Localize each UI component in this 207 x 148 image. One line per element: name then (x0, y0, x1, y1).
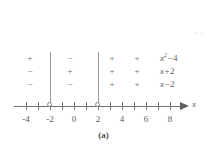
axis-variable-label: x (192, 99, 196, 109)
axis-tick (158, 102, 159, 110)
sign-cell: − (24, 65, 36, 78)
open-circle-point (95, 102, 100, 107)
sign-cell: + (131, 78, 143, 91)
axis-tick-label: 8 (160, 114, 180, 124)
axis-tick (146, 102, 147, 110)
expr-number: 2 (170, 79, 175, 89)
row-expression-label: x+2 (160, 64, 175, 78)
expr-number: 4 (173, 53, 178, 63)
axis-tick (38, 102, 39, 110)
sign-cell: + (131, 52, 143, 65)
axis-tick (134, 102, 135, 110)
sign-cell: − (24, 78, 36, 91)
axis-tick (122, 102, 123, 110)
sign-cell: + (106, 52, 118, 65)
table-row: − − + + x−2 (0, 78, 207, 91)
axis-tick-label: 2 (88, 114, 108, 124)
sign-cell: + (106, 78, 118, 91)
row-expression-label: x−2 (160, 77, 175, 91)
axis-tick-label: -4 (16, 114, 36, 124)
axis-tick (74, 102, 75, 110)
axis-tick-label: 4 (112, 114, 132, 124)
open-circle-point (47, 102, 52, 107)
sign-cell: + (106, 65, 118, 78)
axis-tick-label: 6 (136, 114, 156, 124)
sign-table-divider (98, 52, 99, 105)
sign-cell: − (64, 78, 76, 91)
axis-tick (26, 102, 27, 110)
sign-cell: + (131, 65, 143, 78)
sign-chart-figure: x+y + − + + x2−4 − + + + x+2 − − + + x−2… (0, 0, 207, 148)
sign-cell: + (64, 65, 76, 78)
scan-artifact-mark: x+y (195, 30, 204, 35)
axis-tick (170, 102, 171, 110)
axis-arrow-icon (180, 102, 189, 110)
sign-cell: + (24, 52, 36, 65)
table-row: − + + + x+2 (0, 65, 207, 78)
axis-tick-label: -2 (40, 114, 60, 124)
figure-caption: (a) (0, 130, 207, 140)
axis-tick (110, 102, 111, 110)
axis-tick (86, 102, 87, 110)
row-expression-label: x2−4 (160, 51, 178, 65)
axis-tick (62, 102, 63, 110)
sign-table: + − + + x2−4 − + + + x+2 − − + + x−2 (0, 52, 207, 97)
expr-number: 2 (170, 66, 175, 76)
sign-cell: − (64, 52, 76, 65)
sign-table-divider (50, 52, 51, 105)
axis-tick-label: 0 (64, 114, 84, 124)
table-row: + − + + x2−4 (0, 52, 207, 65)
